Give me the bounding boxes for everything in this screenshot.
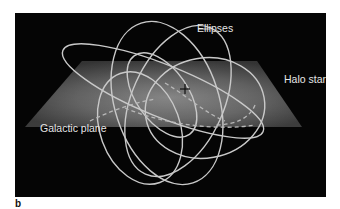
halo-orbits-diagram <box>15 13 326 197</box>
diagram-panel: Ellipses Halo stars Galactic plane <box>15 13 326 197</box>
panel-letter: b <box>15 199 21 209</box>
figure: Ellipses Halo stars Galactic plane b <box>0 0 340 209</box>
ellipses-label: Ellipses <box>197 23 233 34</box>
galactic-plane-label: Galactic plane <box>40 123 107 134</box>
halo-stars-label: Halo stars <box>284 74 326 85</box>
